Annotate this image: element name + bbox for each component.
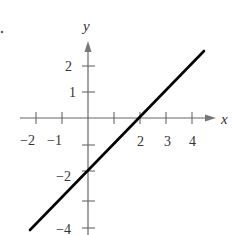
x-axis-arrow-icon	[205, 115, 216, 122]
x-tick-label: −1	[47, 133, 62, 148]
y-tick-label: 2	[65, 59, 72, 74]
x-tick-label: 3	[164, 134, 171, 149]
coordinate-plane: y x −2 −1 2 3 4 2 1 −2 −4	[0, 0, 234, 235]
y-axis	[82, 41, 95, 235]
x-axis	[20, 112, 216, 124]
y-tick-label: 1	[69, 85, 76, 100]
list-marker-dot	[1, 31, 3, 33]
x-tick-label: 4	[189, 134, 196, 149]
x-axis-label: x	[220, 111, 228, 127]
x-tick-label: −2	[20, 133, 35, 148]
x-tick-label: 2	[137, 134, 144, 149]
y-axis-label: y	[81, 18, 90, 34]
y-tick-label: −4	[56, 222, 71, 235]
y-tick-label: −2	[56, 169, 71, 184]
y-axis-arrow-icon	[85, 41, 92, 52]
